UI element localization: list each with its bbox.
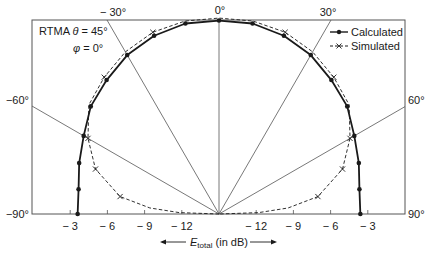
radial-line-60: [219, 107, 405, 214]
calculated-point-dot-icon: [357, 161, 362, 166]
angle-label-30: 30°: [320, 6, 337, 18]
simulated-point-x-icon: [117, 194, 122, 199]
legend: Calculated Simulated: [330, 26, 403, 52]
tick-label: − 12: [245, 220, 267, 232]
annotation-phi: φ = 0°: [73, 42, 103, 54]
calculated-point-dot-icon: [125, 53, 130, 58]
calculated-point-dot-icon: [75, 212, 80, 217]
radial-tick-labels: − 3− 3− 6− 6− 9− 9− 12− 12: [62, 220, 375, 232]
legend-simulated-label: Simulated: [351, 40, 400, 52]
calculated-point-dot-icon: [77, 161, 82, 166]
tick-label: − 9: [137, 220, 153, 232]
annotation-theta: RTMA θ = 45°: [39, 25, 108, 37]
radial-axis-label: Etotal (in dB): [190, 236, 248, 250]
arrow-left-head-icon: [160, 240, 166, 245]
tick-label: − 6: [323, 220, 339, 232]
radial-line--60: [32, 106, 219, 214]
arrow-right-head-icon: [271, 240, 277, 245]
legend-calculated-dot-icon: [337, 30, 341, 34]
angle-label-minus-90: −90°: [6, 208, 29, 220]
calculated-point-dot-icon: [308, 53, 313, 58]
calculated-point-dot-icon: [76, 187, 81, 192]
legend-calculated-label: Calculated: [351, 26, 403, 38]
tick-label: − 6: [100, 220, 116, 232]
radial-line--30: [107, 20, 219, 214]
calculated-point-dot-icon: [183, 21, 188, 26]
tick-label: − 3: [62, 220, 78, 232]
tick-label: − 3: [360, 220, 376, 232]
angle-label-90: 90°: [408, 208, 425, 220]
simulated-point-x-icon: [315, 194, 320, 199]
radial-line-30: [219, 20, 331, 214]
simulated-point-x-icon: [331, 75, 336, 80]
calculated-point-dot-icon: [358, 212, 363, 217]
tick-label: − 12: [171, 220, 193, 232]
angle-label-minus-60: −60°: [6, 94, 29, 106]
angle-label-0: 0°: [215, 4, 226, 16]
calculated-point-dot-icon: [217, 18, 222, 23]
simulated-point-x-icon: [102, 75, 107, 80]
calculated-point-dot-icon: [357, 187, 362, 192]
tick-label: − 9: [286, 220, 302, 232]
polar-pattern-chart: RTMA θ = 45° φ = 0° − 30° 0° 30° −60° −9…: [0, 0, 432, 256]
angle-label-60: 60°: [408, 94, 425, 106]
radial-axis-title: Etotal (in dB): [160, 236, 277, 250]
angle-label-minus-30: − 30°: [100, 6, 126, 18]
